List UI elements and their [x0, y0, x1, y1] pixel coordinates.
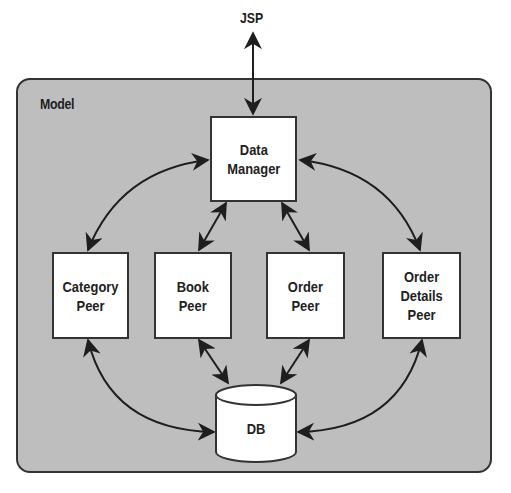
order-peer-label: Order Peer [288, 277, 323, 315]
book-peer-label: Book Peer [177, 277, 209, 315]
arrow-orderdetails-db [298, 340, 422, 432]
arrow-datamanager-category [88, 160, 208, 250]
category-peer-node: Category Peer [52, 252, 129, 339]
diagram-canvas: Model JSP [0, 0, 511, 493]
arrow-datamanager-order [282, 203, 309, 250]
db-label: DB [222, 420, 291, 437]
order-details-peer-node: Order Details Peer [382, 252, 461, 339]
data-manager-node: Data Manager [210, 116, 297, 202]
order-details-peer-label: Order Details Peer [400, 267, 442, 324]
book-peer-node: Book Peer [154, 252, 232, 339]
arrow-category-db [88, 340, 214, 432]
arrow-datamanager-book [199, 203, 226, 250]
arrow-datamanager-orderdetails [300, 160, 420, 250]
arrow-book-db [199, 340, 228, 383]
data-manager-label: Data Manager [227, 140, 280, 178]
order-peer-node: Order Peer [266, 252, 345, 339]
arrow-order-db [281, 340, 309, 383]
category-peer-label: Category Peer [63, 277, 119, 315]
